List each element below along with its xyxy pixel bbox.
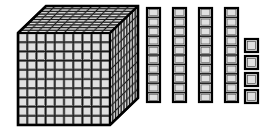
cube-front-unit: [37, 34, 44, 41]
rod-unit: [227, 10, 236, 16]
ten-rod: [173, 8, 186, 102]
rod-unit: [227, 38, 236, 44]
cube-front-unit: [65, 117, 72, 124]
cube-front-unit: [74, 34, 81, 41]
cube-front-unit: [65, 108, 72, 115]
cube-front-unit: [65, 89, 72, 96]
cube-front-unit: [56, 34, 63, 41]
unit-cube: [245, 39, 258, 52]
cube-front-unit: [83, 52, 90, 59]
rod-unit: [175, 19, 184, 25]
cube-front-unit: [74, 89, 81, 96]
cube-front-unit: [37, 98, 44, 105]
rod-unit: [201, 66, 210, 72]
cube-front-unit: [74, 52, 81, 59]
rod-unit: [227, 29, 236, 35]
cube-front-unit: [19, 80, 26, 87]
rod-unit: [201, 10, 210, 16]
cube-front-unit: [56, 52, 63, 59]
rod-unit: [149, 66, 158, 72]
cube-front-unit: [65, 98, 72, 105]
unit-inner: [247, 58, 255, 66]
base-ten-blocks-figure: Base-ten blocks place value model One th…: [0, 0, 270, 138]
rod-unit: [149, 38, 158, 44]
cube-front-unit: [83, 62, 90, 69]
cube-front-unit: [102, 80, 109, 87]
cube-front-unit: [83, 89, 90, 96]
cube-front-unit: [93, 43, 100, 50]
rod-unit: [227, 47, 236, 53]
cube-front-unit: [37, 117, 44, 124]
ten-rod: [225, 8, 238, 102]
rod-unit: [227, 94, 236, 100]
cube-front-unit: [93, 117, 100, 124]
cube-front-unit: [74, 80, 81, 87]
unit-cube: [245, 56, 258, 69]
cube-front-unit: [102, 62, 109, 69]
cube-front-unit: [65, 34, 72, 41]
cube-front-unit: [47, 108, 54, 115]
cube-front-unit: [28, 71, 35, 78]
rod-unit: [149, 19, 158, 25]
cube-front-unit: [102, 108, 109, 115]
cube-front-unit: [37, 80, 44, 87]
cube-front-unit: [83, 117, 90, 124]
cube-front-unit: [56, 117, 63, 124]
rod-unit: [201, 47, 210, 53]
cube-front-unit: [65, 71, 72, 78]
rod-unit: [201, 29, 210, 35]
cube-front-unit: [56, 43, 63, 50]
cube-front-unit: [83, 71, 90, 78]
rod-unit: [227, 57, 236, 63]
cube-front-unit: [102, 43, 109, 50]
cube-front-unit: [47, 62, 54, 69]
rod-unit: [201, 76, 210, 82]
cube-front-unit: [102, 71, 109, 78]
cube-front-unit: [102, 117, 109, 124]
cube-front-unit: [93, 34, 100, 41]
cube-front-unit: [37, 52, 44, 59]
rod-unit: [227, 66, 236, 72]
cube-front-unit: [93, 62, 100, 69]
cube-front-unit: [37, 89, 44, 96]
ten-rod: [199, 8, 212, 102]
rod-unit: [175, 38, 184, 44]
rod-unit: [175, 57, 184, 63]
cube-front-unit: [56, 98, 63, 105]
cube-front-unit: [28, 62, 35, 69]
blocks-canvas: [0, 0, 270, 138]
cube-front-unit: [83, 34, 90, 41]
unit-inner: [247, 92, 255, 100]
rod-unit: [175, 29, 184, 35]
cube-front-unit: [74, 108, 81, 115]
rod-unit: [227, 19, 236, 25]
ten-rod: [147, 8, 160, 102]
cube-front-unit: [102, 98, 109, 105]
cube-front-unit: [28, 117, 35, 124]
cube-front-unit: [93, 89, 100, 96]
rod-unit: [149, 47, 158, 53]
cube-front-unit: [74, 43, 81, 50]
cube-front-unit: [37, 43, 44, 50]
rod-unit: [201, 85, 210, 91]
cube-front-unit: [65, 43, 72, 50]
cube-front-unit: [102, 89, 109, 96]
rod-unit: [227, 85, 236, 91]
rod-unit: [149, 94, 158, 100]
cube-front-unit: [28, 89, 35, 96]
thousand-cube-group: [18, 6, 138, 125]
rod-unit: [175, 47, 184, 53]
cube-front-unit: [28, 34, 35, 41]
cube-front-unit: [47, 52, 54, 59]
rod-unit: [201, 38, 210, 44]
rod-unit: [175, 10, 184, 16]
unit-inner: [247, 41, 255, 49]
rod-unit: [201, 94, 210, 100]
rod-unit: [175, 76, 184, 82]
cube-front-unit: [93, 80, 100, 87]
cube-front-unit: [47, 89, 54, 96]
cube-front-unit: [19, 117, 26, 124]
cube-front-unit: [74, 98, 81, 105]
cube-front-unit: [56, 62, 63, 69]
unit-cube: [245, 90, 258, 103]
